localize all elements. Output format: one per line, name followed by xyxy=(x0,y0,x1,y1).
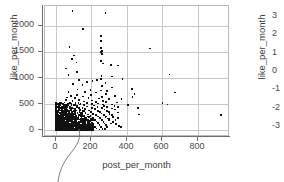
scatter-point xyxy=(122,78,124,80)
scatter-point xyxy=(75,113,77,115)
x-axis-title: post_per_month xyxy=(44,160,229,170)
scatter-point xyxy=(121,98,123,100)
plot-canvas xyxy=(45,6,228,135)
scatter-point xyxy=(114,105,116,107)
x-tick-label: 400 xyxy=(106,142,146,151)
scatter-point xyxy=(117,106,119,108)
scatter-point xyxy=(100,78,102,80)
scatter-point xyxy=(77,89,79,91)
secondary-y-tick-label: -1 xyxy=(272,84,284,93)
scatter-point xyxy=(105,101,107,103)
scatter-point xyxy=(99,129,101,131)
x-axis-spine xyxy=(42,136,230,137)
scatter-point xyxy=(114,95,116,97)
scatter-point xyxy=(89,126,91,128)
scatter-point xyxy=(74,121,76,123)
scatter-point xyxy=(120,126,122,128)
scatter-point xyxy=(127,104,129,106)
scatter-point xyxy=(101,96,103,98)
secondary-y-tick-label: 1 xyxy=(272,48,284,57)
scatter-point xyxy=(69,46,71,48)
gridline-horizontal xyxy=(45,26,228,27)
scatter-point xyxy=(77,124,79,126)
scatter-point xyxy=(174,92,176,94)
scatter-point xyxy=(102,128,104,130)
scatter-point xyxy=(102,63,104,65)
scatter-point xyxy=(56,129,58,131)
gridline-horizontal xyxy=(45,52,228,53)
scatter-point xyxy=(115,123,117,125)
scatter-point xyxy=(132,96,134,98)
scatter-point xyxy=(86,120,88,122)
scatter-point xyxy=(86,102,88,104)
scatter-point xyxy=(71,104,73,106)
scatter-point xyxy=(84,122,86,124)
scatter-point xyxy=(114,109,116,111)
scatter-point xyxy=(137,107,139,109)
scatter-point xyxy=(78,107,80,109)
y-tick-mark xyxy=(38,77,42,78)
scatter-point xyxy=(63,117,65,119)
scatter-point xyxy=(116,102,118,104)
scatter-point xyxy=(91,100,93,102)
scatter-point xyxy=(68,74,70,76)
scatter-point xyxy=(95,92,97,94)
scatter-point xyxy=(88,97,90,99)
gridline-horizontal xyxy=(45,78,228,79)
scatter-point xyxy=(82,28,84,30)
scatter-point xyxy=(111,87,113,89)
scatter-point xyxy=(78,99,80,101)
scatter-point xyxy=(75,124,77,126)
scatter-point xyxy=(72,83,74,85)
scatter-point xyxy=(62,113,64,115)
scatter-point xyxy=(59,124,61,126)
scatter-point xyxy=(101,53,103,55)
scatter-point xyxy=(77,118,79,120)
scatter-point xyxy=(83,110,85,112)
scatter-point xyxy=(100,90,102,92)
scatter-point xyxy=(66,116,68,118)
scatter-point xyxy=(105,82,107,84)
plot-area xyxy=(44,5,229,136)
scatter-point xyxy=(71,107,73,109)
scatter-point xyxy=(93,105,95,107)
scatter-point xyxy=(79,104,81,106)
y-tick-mark xyxy=(38,103,42,104)
scatter-point xyxy=(102,100,104,102)
scatter-point xyxy=(100,35,102,37)
y-tick-mark xyxy=(38,129,42,130)
scatter-point xyxy=(106,106,108,108)
y-tick-label: 2000 xyxy=(0,20,34,29)
gridline-vertical xyxy=(198,6,199,135)
scatter-point xyxy=(92,126,94,128)
y-tick-label: 1500 xyxy=(0,46,34,55)
scatter-point xyxy=(68,91,70,93)
scatter-point xyxy=(55,103,57,105)
scatter-point xyxy=(73,123,75,125)
scatter-point xyxy=(85,117,87,119)
scatter-point xyxy=(101,85,103,87)
scatter-plot-figure: like_per_month like_per_month post_per_m… xyxy=(0,0,284,182)
scatter-point xyxy=(81,113,83,115)
scatter-point xyxy=(79,111,81,113)
scatter-point xyxy=(60,103,62,105)
scatter-point xyxy=(92,122,94,124)
scatter-point xyxy=(83,129,85,131)
scatter-point xyxy=(103,105,105,107)
scatter-point xyxy=(90,89,92,91)
scatter-point xyxy=(66,125,68,127)
scatter-point xyxy=(81,129,83,131)
x-tick-label: 600 xyxy=(141,142,181,151)
scatter-point xyxy=(72,10,74,12)
y-tick-mark xyxy=(38,25,42,26)
scatter-point xyxy=(97,106,99,108)
scatter-point xyxy=(134,93,136,95)
scatter-point xyxy=(96,79,98,81)
scatter-point xyxy=(81,127,83,129)
scatter-point xyxy=(63,106,65,108)
scatter-point xyxy=(106,116,108,118)
scatter-point xyxy=(108,118,110,120)
scatter-point xyxy=(149,48,151,50)
scatter-point xyxy=(76,71,78,73)
scatter-point xyxy=(73,55,75,57)
